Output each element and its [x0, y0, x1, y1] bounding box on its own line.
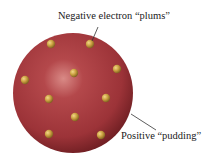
electron-plum	[86, 40, 94, 48]
electron-plum	[113, 65, 121, 73]
electron-plum	[102, 94, 110, 102]
positive-pudding-label: Positive “pudding”	[121, 131, 201, 142]
electron-plum	[47, 40, 55, 48]
pudding-leader-line	[131, 114, 156, 130]
positive-pudding-sphere	[13, 33, 133, 153]
electron-plum	[45, 95, 53, 103]
electron-plum	[70, 69, 78, 77]
electron-plum	[45, 130, 53, 138]
electron-plum	[71, 113, 79, 121]
electron-plum	[97, 131, 105, 139]
electron-plum	[21, 76, 29, 84]
electron-plums-label: Negative electron “plums”	[58, 11, 170, 22]
